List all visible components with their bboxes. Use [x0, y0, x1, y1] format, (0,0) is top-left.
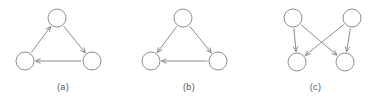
edge-bottom-left-to-top	[31, 26, 50, 52]
edge-top-to-bottom-right	[64, 26, 86, 53]
figure-root: (a) (b) (c)	[0, 0, 379, 104]
graph-node-bottom-left	[142, 52, 160, 70]
graph-node-top-left	[284, 9, 302, 27]
graph-node-bottom-right	[336, 53, 354, 71]
edge-bottom-right-to-bottom-left	[162, 59, 208, 63]
graph-node-bottom-right	[209, 52, 227, 70]
graph-node-bottom-left	[288, 53, 306, 71]
diagram-panel-c: (c)	[252, 0, 379, 104]
graph-b	[126, 0, 252, 80]
graph-node-top	[174, 9, 192, 27]
edge-top-to-bottom-left	[157, 26, 176, 52]
caption-c: (c)	[252, 80, 379, 94]
edge-top-right-to-bottom-right	[345, 28, 350, 51]
caption-b: (b)	[126, 80, 252, 94]
graph-node-top-right	[343, 9, 361, 27]
graph-node-bottom-right	[83, 52, 101, 70]
graph-node-bottom-left	[16, 52, 34, 70]
diagram-panel-a: (a)	[0, 0, 126, 104]
edge-top-to-bottom-right	[190, 26, 212, 53]
edge-bottom-right-to-bottom-left	[36, 59, 82, 63]
caption-a: (a)	[0, 80, 126, 94]
graph-node-top	[48, 9, 66, 27]
edge-top-right-to-bottom-left	[305, 25, 344, 56]
graph-a	[0, 0, 126, 80]
edge-top-left-to-bottom-right	[301, 25, 337, 55]
diagram-panel-b: (b)	[126, 0, 252, 104]
graph-c	[252, 0, 379, 80]
edge-top-left-to-bottom-left	[294, 28, 298, 51]
